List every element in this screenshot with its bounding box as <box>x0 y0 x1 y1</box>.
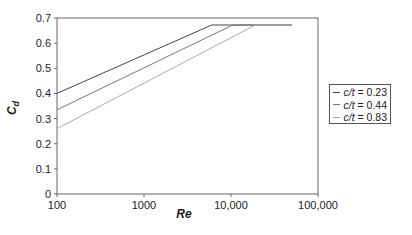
x-tick-label: 100,000 <box>298 199 338 211</box>
x-tick-label: 100 <box>48 199 66 211</box>
y-tick-label: 0.5 <box>36 62 51 74</box>
plot-area <box>57 18 318 194</box>
y-axis-label: Cd <box>5 100 21 115</box>
legend-swatch-2 <box>333 104 340 105</box>
chart-legend: c/t = 0.23 c/t = 0.44 c/t = 0.83 <box>329 84 391 124</box>
legend-swatch-1 <box>333 92 340 93</box>
x-tick-label: 10,000 <box>214 199 248 211</box>
series-line-1 <box>57 25 292 93</box>
y-tick-label: 0.4 <box>36 87 51 99</box>
legend-item: c/t = 0.44 <box>333 99 387 112</box>
y-tick-label: 0.1 <box>36 163 51 175</box>
legend-item: c/t = 0.83 <box>333 111 387 124</box>
svg-text:Cd: Cd <box>5 100 21 115</box>
legend-swatch-3 <box>333 117 340 118</box>
y-tick-label: 0.7 <box>36 12 51 24</box>
y-tick-label: 0.2 <box>36 138 51 150</box>
series-line-3 <box>57 25 292 129</box>
x-tick-label: 1000 <box>132 199 156 211</box>
y-tick-label: 0.6 <box>36 37 51 49</box>
y-tick-label: 0.3 <box>36 113 51 125</box>
legend-item: c/t = 0.23 <box>333 86 387 99</box>
x-axis-label: Re <box>176 207 192 221</box>
